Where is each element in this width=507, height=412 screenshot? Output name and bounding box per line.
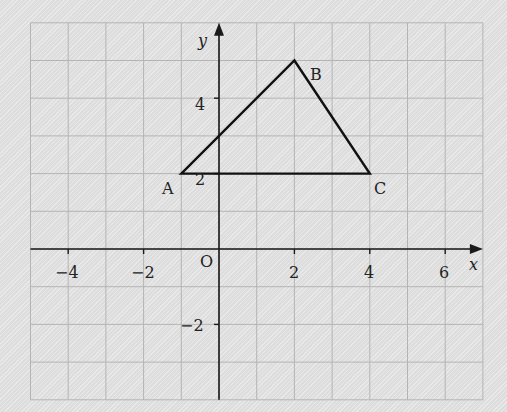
vertex-label-c: C <box>374 179 386 198</box>
x-tick-label-neg2: −2 <box>131 263 155 282</box>
coordinate-plane: y x O −4 −2 2 4 6 4 2 −2 A B C <box>0 0 507 412</box>
x-tick-label-2: 2 <box>289 263 299 282</box>
x-axis-label: x <box>469 255 478 274</box>
y-tick-label-4: 4 <box>195 95 205 114</box>
triangle-abc <box>181 61 369 174</box>
x-tick-label-4: 4 <box>364 263 374 282</box>
x-tick-label-neg4: −4 <box>55 263 79 282</box>
y-tick-label-neg2: −2 <box>180 316 204 335</box>
y-axis-label: y <box>197 31 208 50</box>
grid-lines <box>31 23 483 400</box>
x-tick-label-6: 6 <box>439 263 449 282</box>
y-tick-label-2: 2 <box>195 170 205 189</box>
origin-label: O <box>200 252 213 271</box>
vertex-label-a: A <box>161 179 174 198</box>
vertex-label-b: B <box>310 65 322 84</box>
